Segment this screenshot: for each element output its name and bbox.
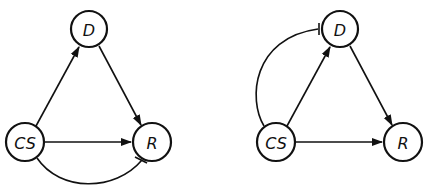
node-r: R bbox=[384, 123, 422, 161]
node-cs: CS bbox=[6, 123, 44, 161]
node-cs: CS bbox=[257, 123, 295, 161]
node-d: D bbox=[71, 11, 107, 47]
left-diagram: D CS R bbox=[6, 11, 171, 184]
svg-text:R: R bbox=[397, 134, 408, 153]
edge-d-to-r bbox=[350, 46, 392, 125]
edge-cs-inhibits-d bbox=[256, 29, 318, 126]
edge-cs-to-d bbox=[36, 47, 79, 126]
svg-text:CS: CS bbox=[265, 134, 287, 153]
svg-text:D: D bbox=[83, 21, 95, 40]
node-r: R bbox=[133, 123, 171, 161]
edge-cs-inhibits-r bbox=[37, 158, 142, 184]
right-diagram: D CS R bbox=[256, 11, 422, 161]
svg-text:R: R bbox=[146, 134, 157, 153]
svg-text:CS: CS bbox=[14, 134, 36, 153]
svg-text:D: D bbox=[334, 21, 346, 40]
edge-cs-to-d bbox=[287, 47, 330, 126]
edge-d-to-r bbox=[99, 46, 141, 125]
node-d: D bbox=[322, 11, 358, 47]
diagram-canvas: D CS R D CS R bbox=[0, 0, 426, 190]
